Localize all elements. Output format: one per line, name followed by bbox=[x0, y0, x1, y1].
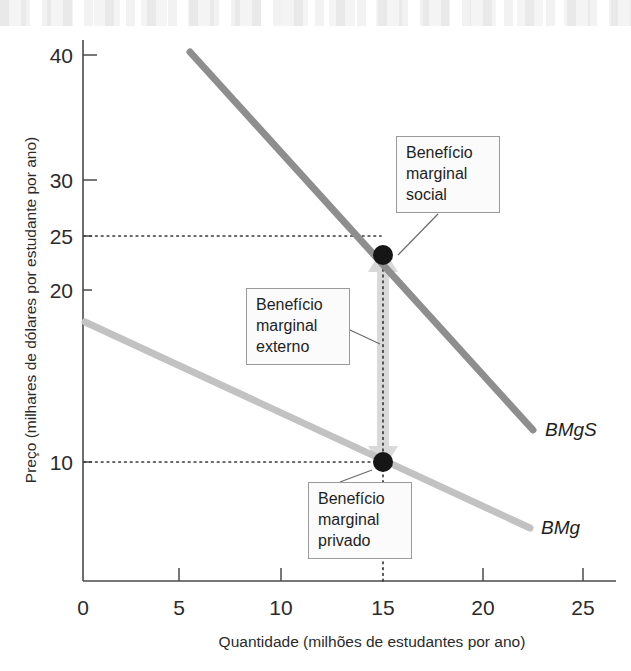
callout-external-benefit[interactable]: Benefício marginal externo bbox=[246, 288, 350, 365]
y-tick-label-25: 25 bbox=[50, 225, 73, 248]
callout-social-benefit[interactable]: Benefício marginal social bbox=[396, 136, 500, 213]
leader-line-private bbox=[340, 470, 372, 482]
social-benefit-curve bbox=[190, 52, 533, 430]
leader-line-social bbox=[398, 214, 438, 255]
x-tick-label-10: 10 bbox=[269, 596, 292, 619]
social-curve-label: BMgS bbox=[545, 419, 597, 440]
social-benefit-point[interactable] bbox=[373, 245, 393, 265]
x-tick-label-25: 25 bbox=[571, 596, 594, 619]
x-tick-label-0: 0 bbox=[77, 596, 89, 619]
private-benefit-point[interactable] bbox=[373, 452, 393, 472]
y-axis-title: Preço (milhares de dólares por estudante… bbox=[22, 137, 39, 483]
y-tick-label-30: 30 bbox=[50, 169, 73, 192]
y-tick-label-20: 20 bbox=[50, 279, 73, 302]
x-tick-label-20: 20 bbox=[471, 596, 494, 619]
y-tick-label-10: 10 bbox=[50, 451, 73, 474]
x-tick-label-15: 15 bbox=[371, 596, 394, 619]
chart-canvas: 40 30 25 20 10 0 5 10 15 20 25 Preço (mi… bbox=[0, 0, 631, 671]
callout-private-benefit[interactable]: Benefício marginal privado bbox=[308, 482, 412, 559]
x-axis-title: Quantidade (milhões de estudantes por an… bbox=[219, 633, 526, 650]
private-curve-label: BMg bbox=[541, 517, 581, 538]
x-tick-label-5: 5 bbox=[173, 596, 185, 619]
y-tick-label-40: 40 bbox=[50, 44, 73, 67]
leader-line-external bbox=[350, 330, 380, 344]
